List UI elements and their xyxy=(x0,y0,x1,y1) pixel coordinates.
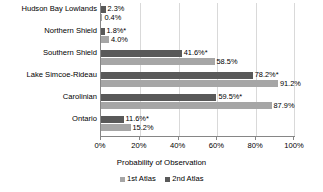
x-tick-label: 60% xyxy=(201,142,231,150)
category-label: Carolinian xyxy=(0,93,97,101)
bar-1st-atlas xyxy=(101,58,215,65)
bar-2nd-atlas xyxy=(101,6,106,13)
x-tick-label: 40% xyxy=(163,142,193,150)
legend-swatch-icon xyxy=(120,177,125,182)
legend-label: 1st Atlas xyxy=(127,175,156,183)
legend-item-2nd-atlas[interactable]: 2nd Atlas xyxy=(165,175,204,183)
bar-value-label-2nd: 41.6%* xyxy=(184,49,208,56)
x-tick xyxy=(100,137,101,140)
bar-chart: Hudson Bay Lowlands Northern Shield Sout… xyxy=(0,0,323,192)
x-tick xyxy=(255,137,256,140)
bar-1st-atlas xyxy=(101,124,131,131)
bar-2nd-atlas xyxy=(101,94,216,101)
bar-group: 2.3% 0.4% xyxy=(101,4,295,26)
x-tick xyxy=(216,137,217,140)
bar-value-label-2nd: 78.2%* xyxy=(255,71,279,78)
bar-value-label-2nd: 2.3% xyxy=(108,5,125,12)
x-tick-label: 20% xyxy=(124,142,154,150)
x-tick xyxy=(293,137,294,140)
bar-group: 41.6%* 58.5% xyxy=(101,48,295,70)
bar-1st-atlas xyxy=(101,102,272,109)
bar-value-label-2nd: 59.5%* xyxy=(218,93,242,100)
category-label: Northern Shield xyxy=(0,27,97,35)
category-label: Southern Shield xyxy=(0,49,97,57)
x-tick-label: 0% xyxy=(85,142,115,150)
bar-group: 11.6%* 15.2% xyxy=(101,114,295,136)
x-axis-title: Probability of Observation xyxy=(0,158,323,167)
bar-1st-atlas xyxy=(101,14,102,21)
legend-item-1st-atlas[interactable]: 1st Atlas xyxy=(120,175,156,183)
bar-value-label-1st: 4.0% xyxy=(111,36,128,43)
legend-swatch-icon xyxy=(165,177,170,182)
bar-group: 59.5%* 87.9% xyxy=(101,92,295,114)
bar-value-label-2nd: 11.6%* xyxy=(126,115,149,122)
bar-group: 78.2%* 91.2% xyxy=(101,70,295,92)
bar-value-label-1st: 87.9% xyxy=(274,102,295,109)
plot-area: 2.3% 0.4% 1.8%* 4.0% 41.6%* 58.5% 78.2%*… xyxy=(100,3,295,137)
bar-1st-atlas xyxy=(101,80,278,87)
bar-2nd-atlas xyxy=(101,72,253,79)
bar-value-label-1st: 15.2% xyxy=(133,124,154,131)
category-label: Ontario xyxy=(0,115,97,123)
x-tick-label: 80% xyxy=(240,142,270,150)
x-tick xyxy=(139,137,140,140)
bar-value-label-1st: 58.5% xyxy=(217,58,238,65)
bar-2nd-atlas xyxy=(101,28,105,35)
bar-group: 1.8%* 4.0% xyxy=(101,26,295,48)
bar-2nd-atlas xyxy=(101,50,182,57)
x-tick xyxy=(178,137,179,140)
x-tick-label: 100% xyxy=(278,142,310,150)
chart-legend: 1st Atlas 2nd Atlas xyxy=(0,175,323,183)
category-label: Hudson Bay Lowlands xyxy=(0,5,97,13)
category-label: Lake Simcoe-Rideau xyxy=(0,71,97,79)
bar-value-label-1st: 0.4% xyxy=(104,14,121,21)
bar-2nd-atlas xyxy=(101,116,124,123)
bar-1st-atlas xyxy=(101,36,109,43)
bar-value-label-2nd: 1.8%* xyxy=(107,27,127,34)
bar-value-label-1st: 91.2% xyxy=(280,80,301,87)
legend-label: 2nd Atlas xyxy=(172,175,203,183)
